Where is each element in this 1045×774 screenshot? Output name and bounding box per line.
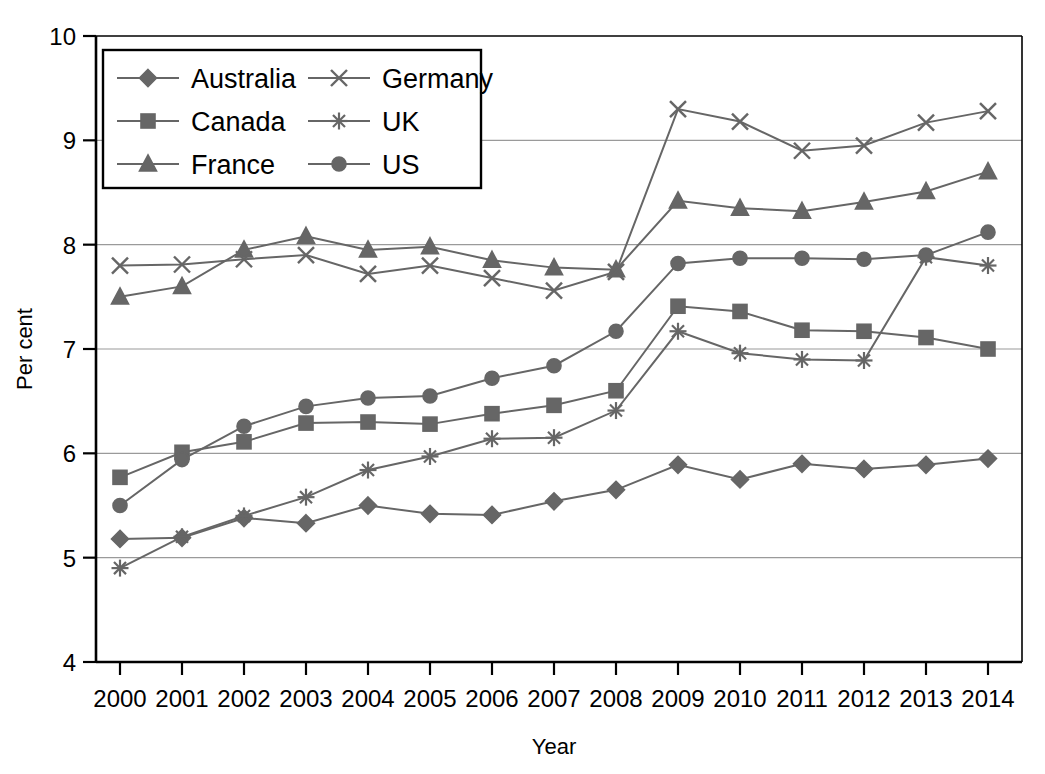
data-point-us-2010 [733, 251, 747, 265]
series-line-france [120, 172, 988, 297]
data-point-germany-2010 [732, 114, 748, 130]
data-point-germany-2013 [918, 115, 934, 131]
legend-label-us: US [382, 150, 420, 180]
data-point-canada-2008 [609, 384, 623, 398]
data-point-uk-2002 [236, 507, 253, 524]
data-point-australia-2013 [918, 456, 935, 473]
x-axis-ticks [120, 662, 988, 675]
data-point-us-2004 [361, 391, 375, 405]
data-point-uk-2009 [670, 323, 687, 340]
y-tick-label-8: 8 [63, 232, 76, 259]
x-tick-label-2002: 2002 [217, 685, 270, 712]
x-axis-title: Year [532, 734, 576, 759]
data-point-australia-2007 [546, 493, 563, 510]
data-point-canada-2009 [671, 299, 685, 313]
y-axis-ticks [83, 36, 96, 662]
data-point-australia-2010 [732, 471, 749, 488]
data-point-canada-2003 [299, 416, 313, 430]
x-tick-label-2000: 2000 [93, 685, 146, 712]
legend-label-france: France [191, 150, 275, 180]
x-tick-label-2014: 2014 [961, 685, 1014, 712]
data-point-france-2005 [422, 238, 439, 254]
data-point-us-2008 [609, 324, 623, 338]
data-point-us-2014 [981, 225, 995, 239]
data-point-germany-2009 [670, 101, 686, 117]
data-point-us-2007 [547, 359, 561, 373]
legend-label-germany: Germany [382, 64, 494, 94]
data-point-australia-2012 [856, 460, 873, 477]
data-point-uk-2004 [360, 462, 377, 479]
data-point-france-2009 [670, 192, 687, 208]
data-point-us-2009 [671, 256, 685, 270]
data-point-canada-2011 [795, 323, 809, 337]
x-tick-label-2012: 2012 [837, 685, 890, 712]
data-point-canada-2006 [485, 407, 499, 421]
data-point-australia-2000 [112, 530, 129, 547]
data-point-germany-2014 [980, 103, 996, 119]
data-point-us-2001 [175, 453, 189, 467]
data-point-australia-2014 [980, 450, 997, 467]
data-point-us-2002 [237, 419, 251, 433]
x-tick-label-2004: 2004 [341, 685, 394, 712]
data-point-uk-2012 [856, 352, 873, 369]
chart-legend: AustraliaGermanyCanadaUKFranceUS [103, 50, 494, 188]
data-point-canada-2010 [733, 304, 747, 318]
legend-label-australia: Australia [191, 64, 297, 94]
data-point-germany-2007 [546, 283, 562, 299]
data-point-uk-2005 [422, 448, 439, 465]
y-tick-label-9: 9 [63, 127, 76, 154]
data-point-canada-2005 [423, 417, 437, 431]
line-chart: 45678910 2000200120022003200420052006200… [0, 0, 1045, 774]
data-point-australia-2006 [484, 506, 501, 523]
data-point-germany-2006 [484, 270, 500, 286]
y-tick-label-4: 4 [63, 649, 76, 676]
data-point-australia-2008 [608, 481, 625, 498]
x-tick-label-2010: 2010 [713, 685, 766, 712]
data-point-canada-2012 [857, 324, 871, 338]
data-point-uk-2008 [608, 402, 625, 419]
legend-label-uk: UK [382, 107, 420, 137]
legend-marker-square-icon [141, 114, 155, 128]
data-point-us-2000 [113, 499, 127, 513]
data-point-france-2001 [174, 277, 191, 293]
data-point-us-2011 [795, 251, 809, 265]
x-tick-label-2006: 2006 [465, 685, 518, 712]
y-tick-label-5: 5 [63, 545, 76, 572]
data-point-france-2003 [298, 227, 315, 243]
data-point-australia-2004 [360, 497, 377, 514]
data-point-uk-2014 [980, 257, 997, 274]
data-point-us-2006 [485, 371, 499, 385]
y-tick-label-10: 10 [49, 23, 76, 50]
series-australia [112, 450, 997, 547]
data-point-uk-2011 [794, 351, 811, 368]
legend-marker-asterisk-icon [331, 113, 348, 130]
data-point-canada-2000 [113, 470, 127, 484]
data-point-canada-2007 [547, 398, 561, 412]
data-point-us-2012 [857, 252, 871, 266]
data-point-australia-2009 [670, 456, 687, 473]
data-point-france-2014 [980, 163, 997, 179]
x-tick-label-2009: 2009 [651, 685, 704, 712]
legend-marker-circle-icon [332, 157, 346, 171]
x-tick-label-2008: 2008 [589, 685, 642, 712]
x-tick-label-2001: 2001 [155, 685, 208, 712]
data-point-us-2005 [423, 389, 437, 403]
data-point-canada-2002 [237, 435, 251, 449]
series-canada [113, 299, 995, 484]
y-axis-tick-labels: 45678910 [49, 23, 76, 676]
data-point-us-2003 [299, 399, 313, 413]
data-point-us-2013 [919, 248, 933, 262]
x-tick-label-2007: 2007 [527, 685, 580, 712]
x-tick-label-2011: 2011 [776, 685, 828, 712]
data-point-uk-2001 [174, 528, 191, 545]
data-point-uk-2000 [112, 560, 129, 577]
y-axis-title: Per cent [12, 308, 37, 390]
x-axis-tick-labels: 2000200120022003200420052006200720082009… [93, 685, 1014, 712]
data-point-canada-2014 [981, 342, 995, 356]
y-tick-label-6: 6 [63, 440, 76, 467]
data-point-canada-2004 [361, 415, 375, 429]
x-tick-label-2005: 2005 [403, 685, 456, 712]
data-point-uk-2003 [298, 489, 315, 506]
data-point-australia-2003 [298, 515, 315, 532]
chart-canvas: 45678910 2000200120022003200420052006200… [0, 0, 1045, 774]
